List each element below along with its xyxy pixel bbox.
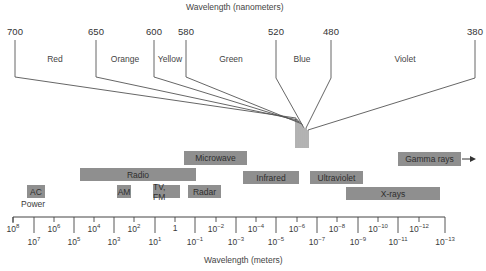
meter-tick-label: 1 — [173, 223, 178, 233]
meter-tick-label: 107 — [28, 236, 41, 247]
tick-exponent: 1 — [158, 236, 161, 242]
arrow-right-icon — [462, 156, 476, 162]
meter-tick-label: 105 — [68, 236, 81, 247]
tick-exponent: −3 — [237, 236, 244, 242]
tick-exponent: −8 — [338, 223, 345, 229]
tick-exponent: −9 — [359, 236, 366, 242]
meter-tick-label: 10−11 — [388, 236, 407, 247]
tick-exponent: −13 — [445, 236, 455, 242]
tick-exponent: −7 — [318, 236, 325, 242]
meter-tick-label: 10−2 — [208, 223, 224, 234]
meter-tick-label: 106 — [48, 223, 61, 234]
meter-tick-label: 10−13 — [435, 236, 455, 247]
meter-tick-label: 10−12 — [409, 223, 429, 234]
tick-base: 1 — [173, 223, 178, 233]
tick-exponent: 4 — [97, 223, 100, 229]
meter-tick-label: 101 — [149, 236, 162, 247]
meter-tick-label: 10−10 — [368, 223, 388, 234]
meter-tick-label: 10−6 — [289, 223, 305, 234]
tick-exponent: 2 — [137, 223, 140, 229]
meter-tick-label: 10−4 — [248, 223, 264, 234]
tick-exponent: 8 — [16, 223, 19, 229]
tick-exponent: 5 — [77, 236, 80, 242]
tick-exponent: −5 — [277, 236, 284, 242]
meter-tick-label: 102 — [128, 223, 141, 234]
meter-tick-label: 10−7 — [309, 236, 325, 247]
tick-exponent: −10 — [378, 223, 388, 229]
tick-exponent: 3 — [117, 236, 120, 242]
meter-tick-label: 10−9 — [350, 236, 366, 247]
tick-exponent: −4 — [257, 223, 264, 229]
meter-tick-label: 10−8 — [329, 223, 345, 234]
meter-tick-label: 108 — [7, 223, 20, 234]
tick-exponent: −6 — [298, 223, 305, 229]
tick-exponent: −12 — [419, 223, 429, 229]
tick-exponent: −1 — [196, 236, 203, 242]
meter-tick-label: 10−5 — [268, 236, 284, 247]
tick-exponent: 6 — [57, 223, 60, 229]
bottom-axis-title: Wavelength (meters) — [204, 255, 283, 265]
meter-tick-label: 104 — [88, 223, 101, 234]
meter-tick-label: 103 — [108, 236, 121, 247]
meter-tick-label: 10−3 — [228, 236, 244, 247]
tick-exponent: 7 — [37, 236, 40, 242]
tick-exponent: −11 — [398, 236, 408, 242]
tick-exponent: −2 — [217, 223, 224, 229]
meter-tick-label: 10−1 — [187, 236, 203, 247]
